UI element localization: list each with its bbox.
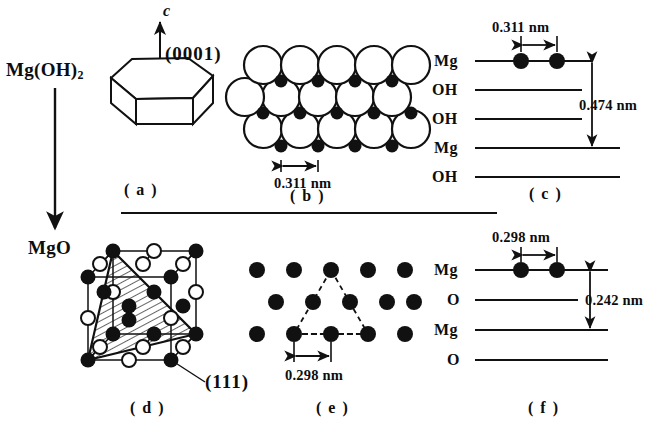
panel-b-dimension-arrow [281,160,318,172]
panel-label-b: ( b ) [290,188,325,204]
panel-c-layer-4: OH [432,169,458,185]
panel-f-layer-stack [475,270,608,360]
panel-e-dimension-arrow [294,342,331,362]
panel-label-f: ( f ) [528,400,559,416]
plane-label-111: (111) [205,372,249,391]
panel-label-c: ( c ) [529,186,562,202]
panel-f-layer-2: Mg [434,322,458,338]
panel-c-layer-stack [475,61,620,177]
panel-label-d: ( d ) [130,400,165,416]
panel-f-in-plane-dimension [521,247,557,262]
plane-label-0001: (0001) [165,44,222,63]
panel-f-layer-3: O [447,352,460,368]
panel-f-layer-1: O [447,292,460,308]
c-axis-label: c [163,3,170,19]
panel-c-layer-0: Mg [434,53,458,69]
panel-e-plane-atoms [249,262,422,362]
panel-c-layer-2: OH [432,111,458,127]
panel-a-hexagonal-platelet [111,22,213,124]
row-label-mgo: MgO [28,238,71,257]
panel-label-e: ( e ) [316,400,349,416]
panel-c-layer-3: Mg [434,140,458,156]
panel-b-close-packed-layer [226,46,430,172]
panel-f-interlayer-label: 0.242 nm [585,293,643,308]
panel-e-dimension-label: 0.298 nm [285,368,343,383]
panel-c-layer-1: OH [432,82,458,98]
panel-d-unit-cell [81,244,206,383]
figure-root: Mg(OH)2 MgO c (0001) ( a ) 0.311 nm ( b … [0,0,656,433]
panel-label-a: ( a ) [124,182,158,198]
panel-c-interlayer-label: 0.474 nm [579,98,637,113]
panel-f-in-plane-label: 0.298 nm [492,230,550,245]
panel-c-in-plane-label: 0.311 nm [492,20,549,35]
panel-f-layer-0: Mg [434,262,458,278]
panel-c-in-plane-dimension [521,36,557,52]
row-label-mg-oh-2: Mg(OH)2 [6,60,84,79]
